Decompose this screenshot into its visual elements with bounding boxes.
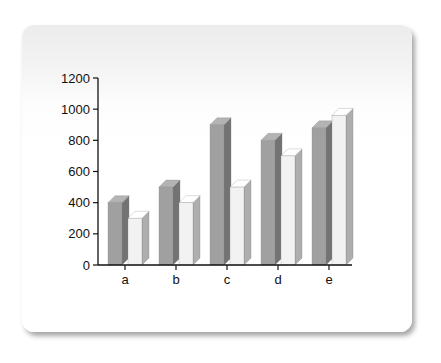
bar-chart: 020040060080010001200abcde (0, 0, 441, 363)
bar-front (312, 128, 326, 265)
bar-front (108, 203, 122, 265)
x-tick-label: e (325, 272, 332, 287)
y-tick-label: 600 (68, 164, 90, 179)
bar-front (332, 115, 346, 265)
bar-front (210, 125, 224, 265)
y-tick-label: 400 (68, 195, 90, 210)
y-tick-label: 0 (83, 258, 90, 273)
x-tick-label: c (224, 272, 231, 287)
y-tick-label: 200 (68, 226, 90, 241)
y-tick-label: 800 (68, 133, 90, 148)
y-tick-label: 1200 (61, 71, 90, 86)
bar-front (179, 203, 193, 265)
bar-front (128, 218, 142, 265)
bar-side (346, 108, 353, 265)
bar-front (261, 140, 275, 265)
x-tick-label: b (172, 272, 179, 287)
x-tick-label: d (274, 272, 281, 287)
bar-front (281, 156, 295, 265)
bar-side (295, 149, 302, 265)
bar-side (193, 196, 200, 265)
x-tick-label: a (121, 272, 129, 287)
bar-front (230, 187, 244, 265)
bar-side (244, 180, 251, 265)
bar-side (142, 211, 149, 265)
y-tick-label: 1000 (61, 102, 90, 117)
bar-front (159, 187, 173, 265)
